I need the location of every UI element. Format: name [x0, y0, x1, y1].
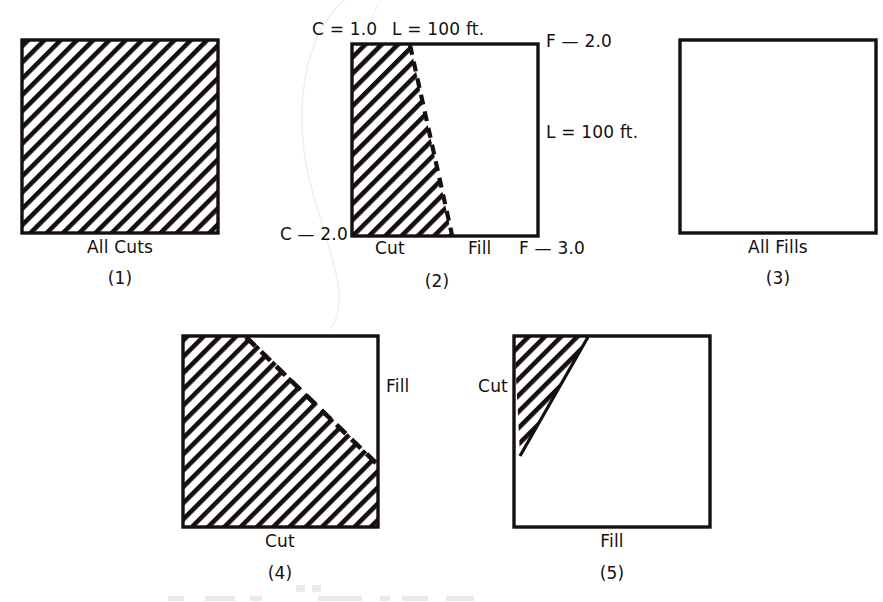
panel-2-label-corner-top-left: C = 1.0 [312, 21, 377, 38]
panel-1-square [22, 40, 218, 233]
panel-1-number: (1) [108, 270, 133, 287]
panel-2-label-corner-top-right: F — 2.0 [546, 33, 612, 50]
panel-3-border [680, 40, 876, 233]
panel-2-label-right-length: L = 100 ft. [546, 124, 638, 141]
panel-4-caption: Cut [265, 533, 295, 550]
panel-1-caption: All Cuts [87, 239, 153, 256]
panel-4-square [173, 326, 388, 537]
panel-2-square [340, 32, 550, 248]
panel-5-number: (5) [600, 565, 625, 582]
panel-5-square [504, 326, 720, 537]
panel-3-square [680, 40, 876, 233]
panel-2-number: (2) [425, 273, 450, 290]
panel-2-label-top-length: L = 100 ft. [392, 21, 484, 38]
panel-2-label-bottom-fill: Fill [468, 240, 492, 257]
panel-5-label-left-cut: Cut [478, 378, 508, 395]
panel-3-caption: All Fills [748, 239, 808, 256]
panel-5-caption: Fill [600, 533, 624, 550]
panel-3-number: (3) [766, 270, 791, 287]
page-caption-remnant [168, 585, 474, 601]
panel-2-label-corner-bottom-right: F — 3.0 [519, 240, 585, 257]
panel-2-label-bottom-cut: Cut [375, 240, 405, 257]
panel-2-label-corner-bottom-left: C — 2.0 [280, 226, 348, 243]
panel-4-label-right-fill: Fill [386, 378, 410, 395]
figure-canvas [0, 0, 883, 602]
panel-4-number: (4) [268, 565, 293, 582]
panel-1-hatch-fill [22, 40, 218, 233]
